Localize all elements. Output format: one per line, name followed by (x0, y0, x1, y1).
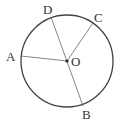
label-d: D (43, 2, 52, 17)
label-b: B (82, 107, 91, 122)
label-o: O (71, 54, 80, 69)
label-a: A (6, 49, 16, 64)
radius-oa (21, 56, 67, 61)
label-c: C (94, 10, 103, 25)
circle-diagram: A B C D O (0, 0, 123, 124)
center-point (65, 59, 68, 62)
